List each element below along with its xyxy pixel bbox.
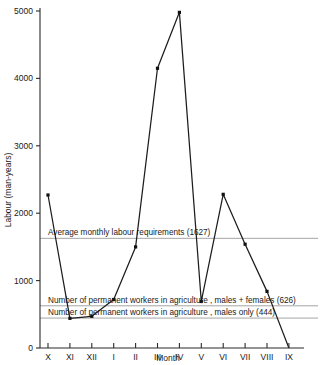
reference-label-average-requirement: Average monthly labour requirements (162… [48, 228, 211, 237]
x-tick-label: I [113, 352, 115, 362]
chart-canvas: 010002000300040005000 XXIXIIIIIIIIIVVVIV… [0, 0, 326, 365]
x-tick-label: XI [66, 352, 74, 362]
data-point-marker [134, 245, 137, 248]
x-tick-label: V [198, 352, 204, 362]
data-point-marker [244, 243, 247, 246]
y-axis-title: Labour (man-years) [3, 153, 13, 228]
reference-label-permanent-males-only: Number of permanent workers in agricultu… [48, 308, 275, 317]
data-point-markers [46, 11, 268, 320]
y-tick-label: 3000 [14, 141, 33, 151]
x-tick-label: X [45, 352, 51, 362]
x-tick-label: II [133, 352, 138, 362]
x-tick-label: VI [219, 352, 227, 362]
labour-requirements-chart: 010002000300040005000 XXIXIIIIIIIIIVVVIV… [0, 0, 326, 365]
x-tick-label: XII [87, 352, 97, 362]
data-point-marker [265, 290, 268, 293]
x-tick-label: IX [285, 352, 293, 362]
y-tick-label: 1000 [14, 276, 33, 286]
y-tick-label: 2000 [14, 208, 33, 218]
y-tick-label: 4000 [14, 73, 33, 83]
y-tick-label: 0 [28, 343, 33, 353]
reference-lines-group [40, 238, 318, 318]
x-tick-label: VII [240, 352, 250, 362]
y-tick-label: 5000 [14, 6, 33, 16]
data-point-marker [68, 317, 71, 320]
x-axis-title: Month [156, 353, 180, 363]
data-point-marker [46, 193, 49, 196]
data-point-marker [222, 193, 225, 196]
y-axis-tick-labels: 010002000300040005000 [14, 6, 33, 353]
x-tick-label: VIII [261, 352, 274, 362]
x-axis-ticks [48, 343, 289, 348]
data-point-marker [156, 67, 159, 70]
reference-label-permanent-males-females: Number of permanent workers in agricultu… [48, 296, 296, 305]
data-point-marker [178, 11, 181, 14]
y-axis-ticks [36, 11, 40, 348]
